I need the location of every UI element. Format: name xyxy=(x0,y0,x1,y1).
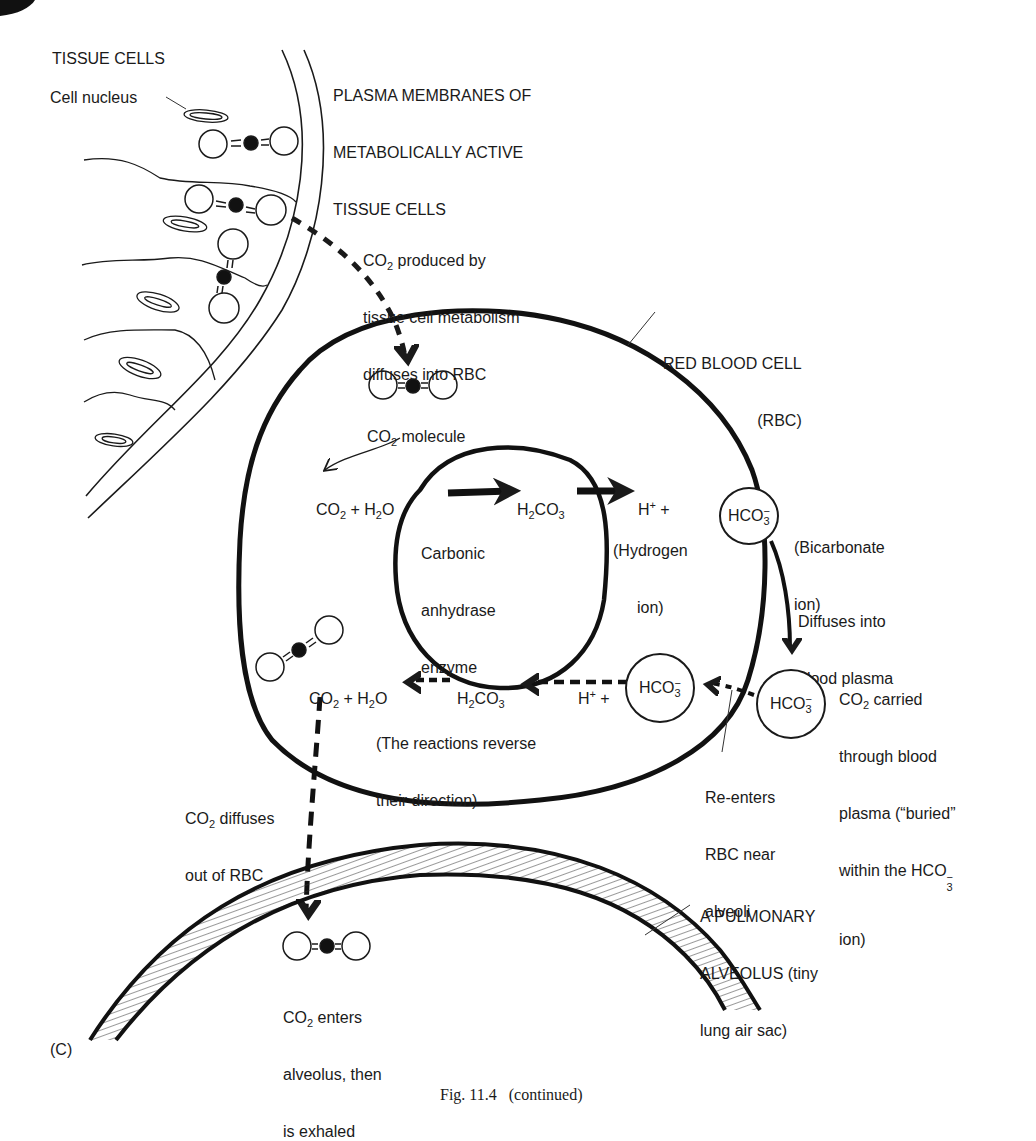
co2-molecule-tissue-2 xyxy=(185,185,286,225)
corner-blob-shape xyxy=(0,0,35,16)
label-cell-nucleus: Cell nucleus xyxy=(50,88,137,107)
label-plasma-membranes: PLASMA MEMBRANES OF METABOLICALLY ACTIVE… xyxy=(333,48,531,238)
tissue-membrane xyxy=(86,50,323,518)
label-co2-molecule: CO2 molecule xyxy=(358,408,466,446)
label-pulmonary-alveolus: A PULMONARY ALVEOLUS (tiny lung air sac) xyxy=(700,869,818,1059)
nucleus-5 xyxy=(94,431,133,448)
equation-reverse-products: CO2 + H2O xyxy=(300,670,387,708)
bicarbonate-ion-upper: HCO−3 xyxy=(719,487,779,545)
label-red-blood-cell: RED BLOOD CELL (RBC) xyxy=(663,316,802,449)
bold-arrow-forward-1 xyxy=(448,491,510,493)
label-co2-produced: CO2 produced by tissue cell metabolism d… xyxy=(363,213,520,403)
equation-carbonic-acid: H2CO3 xyxy=(508,481,565,519)
bicarbonate-ion-plasma: HCO−3 xyxy=(756,669,826,739)
rbc-leader-line xyxy=(628,312,655,345)
label-co2-carried: CO2 carried through blood plasma (“burie… xyxy=(839,652,955,968)
equation-reactants: CO2 + H2O xyxy=(307,481,394,519)
label-tissue-cells: TISSUE CELLS xyxy=(52,49,165,68)
label-carbonic-anhydrase: Carbonic anhydrase enzyme xyxy=(421,506,496,696)
label-co2-diffuses-out: CO2 diffuses out of RBC xyxy=(185,771,274,904)
co2-molecule-tissue-3 xyxy=(209,229,248,323)
co2-molecule-tissue-1 xyxy=(199,127,298,158)
bold-arrow-to-plasma xyxy=(771,541,790,648)
label-co2-enters-alveolus: CO2 enters alveolus, then is exhaled xyxy=(283,970,382,1141)
equation-reverse-hydrogen-ion: H+ + xyxy=(569,670,610,708)
co2-molecule-alveolus xyxy=(283,932,370,960)
nucleus-leader-line xyxy=(166,95,188,113)
nucleus-3 xyxy=(135,288,182,317)
panel-label: (C) xyxy=(50,1040,72,1059)
figure-caption: Fig. 11.4 (continued) xyxy=(440,1086,583,1104)
bicarbonate-ion-rbc: HCO−3 xyxy=(625,653,695,723)
label-hydrogen-ion: (Hydrogen ion) xyxy=(613,503,688,636)
nucleus-1 xyxy=(184,108,229,124)
nucleus-2 xyxy=(162,213,208,234)
label-reactions-reverse: (The reactions reverse their direction) xyxy=(376,696,536,829)
nucleus-4 xyxy=(117,353,164,383)
